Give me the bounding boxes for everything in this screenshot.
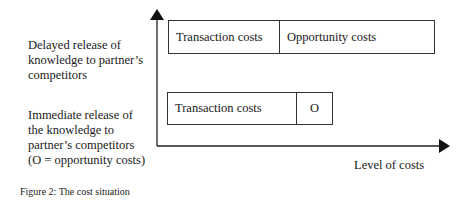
segment-label: O <box>310 101 319 116</box>
x-axis-arrow-icon <box>439 139 450 153</box>
cost-bar-delayed: Transaction costs Opportunity costs <box>168 20 435 54</box>
figure-caption: Figure 2: The cost situation <box>20 186 130 197</box>
segment-label: Transaction costs <box>176 30 263 45</box>
segment-label: Transaction costs <box>175 101 262 116</box>
y-axis-arrow-icon <box>150 9 164 20</box>
x-axis <box>157 139 450 153</box>
segment-label: Opportunity costs <box>287 30 376 45</box>
segment-transaction-costs: Transaction costs <box>169 21 279 53</box>
y-axis <box>150 9 164 146</box>
segment-transaction-costs: Transaction costs <box>168 93 296 124</box>
segment-opportunity-costs-short: O <box>296 93 332 124</box>
x-axis-label: Level of costs <box>354 158 424 173</box>
segment-opportunity-costs: Opportunity costs <box>279 21 434 53</box>
cost-bar-immediate: Transaction costs O <box>167 92 333 125</box>
